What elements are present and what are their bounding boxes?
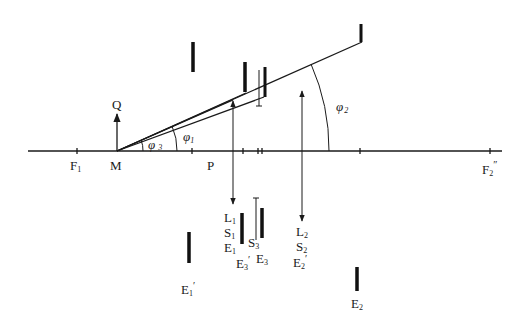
label-P: P (207, 158, 214, 173)
bottom-labels: L1S1E1S3E3′E3L2S2E2′E1′E2 (181, 210, 363, 312)
image-bars (187, 198, 359, 291)
object-bar-2 (243, 62, 247, 92)
object-bar-4 (360, 24, 363, 42)
label-Q: Q (112, 97, 122, 112)
optics-diagram: F1 M P F2″ Q φ3 φ1 φ2 L1S1E1S3E3′E3L2S2E… (0, 0, 528, 328)
label-L2: L2 (296, 224, 308, 240)
label-F1: F1 (70, 158, 81, 174)
label-E1: E1 (224, 240, 236, 256)
thin-markers (256, 70, 262, 106)
label-phi2: φ2 (336, 99, 348, 115)
ray-line (117, 100, 233, 151)
label-M: M (110, 158, 122, 173)
image-bar-E2 (355, 267, 359, 291)
rays (117, 42, 362, 151)
image-bar-E1 (240, 213, 244, 244)
object-bar-1 (191, 42, 195, 72)
label-E2: E2 (351, 296, 363, 312)
image-bar-E1p (187, 232, 191, 263)
label-F2-double-prime: F2″ (482, 159, 497, 178)
label-E1p: E1′ (181, 280, 195, 298)
label-S3: S3 (248, 235, 259, 251)
object-bar-3 (264, 67, 267, 97)
label-S1: S1 (224, 225, 235, 241)
label-phi3: φ3 (148, 137, 162, 152)
label-phi1: φ1 (183, 129, 194, 145)
label-E3: E3 (256, 251, 268, 267)
image-bar-E3 (260, 208, 264, 238)
phi2-arc (311, 64, 329, 151)
label-E3p: E3′ (236, 254, 250, 272)
label-E2p: E2′ (293, 253, 307, 271)
label-L1: L1 (224, 210, 236, 226)
object-bars (191, 24, 362, 97)
